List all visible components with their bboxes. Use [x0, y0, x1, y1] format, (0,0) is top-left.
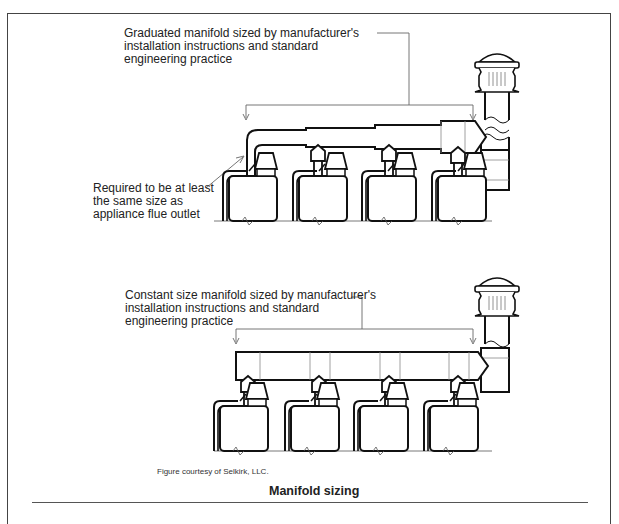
connector-size-label: Required to be at least the same size as…	[93, 182, 214, 221]
appliance-icon	[354, 383, 408, 455]
constant-manifold-label: Constant size manifold sized by manufact…	[125, 289, 376, 328]
appliance-icon	[285, 383, 339, 455]
manifold-diagram	[0, 0, 619, 524]
appliance-icon	[214, 383, 268, 455]
appliance-icon	[424, 383, 478, 455]
graduated-manifold-label: Graduated manifold sized by manufacturer…	[124, 27, 359, 66]
figure-caption: Manifold sizing	[269, 484, 359, 498]
figure-credit: Figure courtesy of Selkirk, LLC.	[157, 467, 269, 476]
